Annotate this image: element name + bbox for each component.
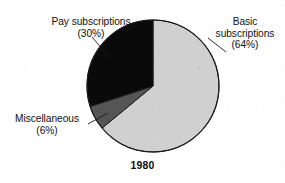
slice-label-miscellaneous: Miscellaneous (6%) (4, 113, 90, 136)
slice-label-pay-subscriptions-percent: (30%) (38, 28, 144, 40)
slice-label-basic-subscriptions-percent: (64%) (206, 39, 284, 51)
slice-label-basic-subscriptions: Basic subscriptions (64%) (206, 16, 284, 51)
slice-label-basic-subscriptions-name-line1: Basic (206, 16, 284, 28)
slice-label-pay-subscriptions-name: Pay subscriptions (52, 16, 131, 27)
pie-chart-figure: Pay subscriptions (30%) Basic subscripti… (0, 0, 285, 183)
slice-label-basic-subscriptions-name-line2: subscriptions (206, 28, 284, 40)
slice-label-miscellaneous-percent: (6%) (4, 125, 90, 137)
slice-label-miscellaneous-name: Miscellaneous (15, 113, 79, 124)
chart-caption-year: 1980 (0, 160, 285, 171)
slice-label-pay-subscriptions: Pay subscriptions (30%) (38, 16, 144, 39)
